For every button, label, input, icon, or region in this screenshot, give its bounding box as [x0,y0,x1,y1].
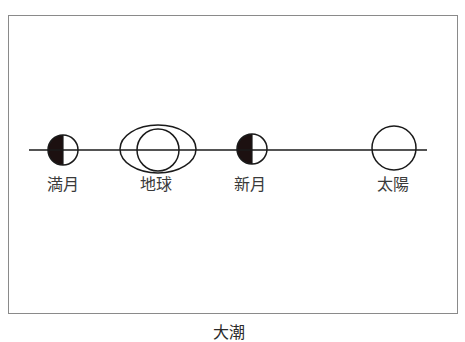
earth-label: 地球 [140,176,171,194]
sun-icon [372,126,416,170]
new-moon-icon [237,134,267,164]
full-moon-label: 満月 [47,176,78,194]
diagram-caption: 大潮 [213,324,245,342]
new-moon-label: 新月 [234,176,265,194]
sun-label: 太陽 [377,176,408,194]
earth-icon [120,125,196,173]
